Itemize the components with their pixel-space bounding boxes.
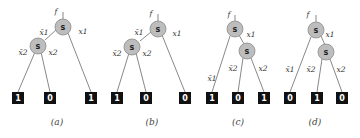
edge-label-root-right: x1	[78, 27, 87, 36]
node-label: s	[245, 47, 250, 56]
edge-label-child-left: x̄2	[228, 64, 237, 73]
edge-label-child-left: x̄2	[112, 49, 121, 58]
node-label: s	[324, 48, 329, 57]
terminal-value: 1	[15, 94, 21, 103]
node-label: s	[233, 25, 238, 34]
panel-caption: (b)	[146, 117, 159, 127]
terminal-value: 1	[209, 94, 215, 103]
panel-caption: (c)	[232, 117, 245, 127]
panel-caption: (d)	[309, 117, 322, 127]
panel-a: f s s x̄1 x1 x̄2 x2 1 0 1 (a)	[12, 7, 97, 127]
panel-d: f s s x̄1 x1 x̄2 x2 0 1 0 (d)	[284, 10, 348, 127]
function-label: f	[149, 9, 154, 18]
edge-label-child-left: x̄2	[18, 48, 27, 57]
node-label: s	[61, 23, 66, 32]
terminal-value: 0	[182, 94, 188, 103]
terminal-value: 1	[88, 94, 94, 103]
edge-label-child-right: x2	[142, 49, 151, 58]
edge-label-root-left: x̄1	[134, 28, 143, 37]
edge-label-root-right: x1	[325, 30, 334, 39]
terminal-value: 1	[114, 94, 120, 103]
edge-label-root-left: x̄1	[285, 65, 294, 74]
terminal-value: 0	[235, 94, 241, 103]
decision-diagram-figure: f s s x̄1 x1 x̄2 x2 1 0 1 (a) f s s x̄1 …	[0, 0, 360, 138]
terminal-value: 1	[261, 94, 267, 103]
edge-label-root-left: x̄1	[207, 74, 216, 83]
edge-label-child-left: x̄2	[306, 65, 315, 74]
node-label: s	[36, 42, 41, 51]
edge-label-root-right: x1	[246, 30, 255, 39]
edge-label-child-right: x2	[48, 48, 57, 57]
terminal-value: 0	[339, 94, 345, 103]
edge-label-root-right: x1	[172, 29, 181, 38]
edge-label-child-right: x2	[336, 65, 345, 74]
edge-label-root-left: x̄1	[39, 28, 48, 37]
function-label: f	[54, 7, 59, 16]
terminal-value: 1	[314, 94, 320, 103]
node-label: s	[156, 25, 161, 34]
terminal-value: 0	[287, 94, 293, 103]
panel-c: f s s x̄1 x1 x̄2 x2 1 0 1 (c)	[206, 10, 270, 127]
edge-label-child-right: x2	[258, 64, 267, 73]
function-label: f	[227, 10, 232, 19]
node-label: s	[314, 26, 319, 35]
node-label: s	[130, 43, 135, 52]
terminal-value: 0	[47, 94, 53, 103]
panel-b: f s s x̄1 x1 x̄2 x2 1 0 0 (b)	[111, 9, 191, 127]
terminal-value: 0	[143, 94, 149, 103]
panel-caption: (a)	[51, 117, 64, 127]
function-label: f	[306, 10, 311, 19]
